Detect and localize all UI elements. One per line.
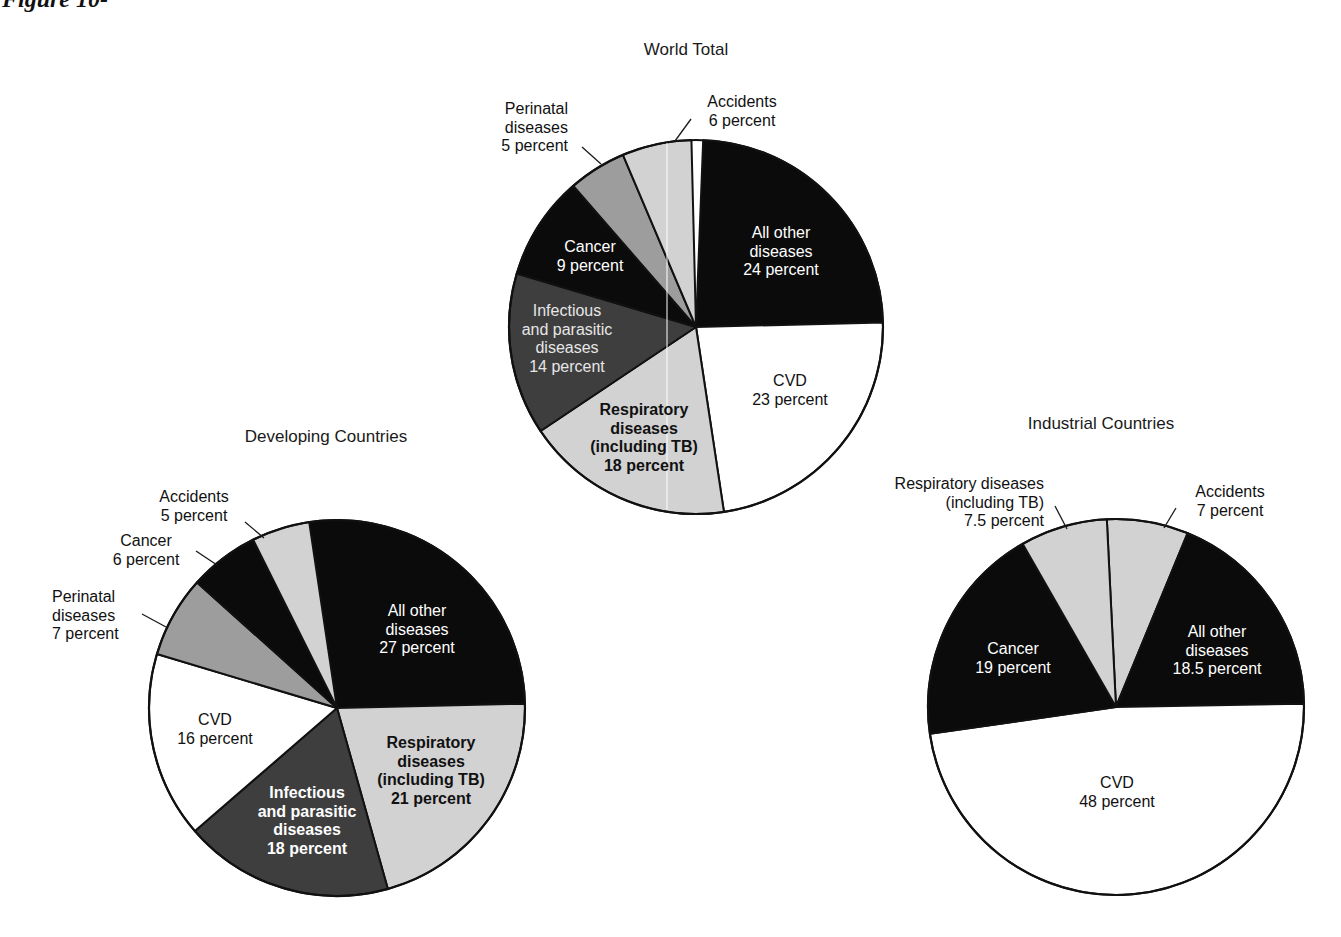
label-line: diseases <box>610 420 678 437</box>
label-world-perinatal: Perinataldiseases5 percent <box>501 100 568 154</box>
world-accidents-leader <box>675 119 691 141</box>
label-line: Respiratory <box>600 401 689 418</box>
label-line: 7 percent <box>52 625 119 642</box>
ind-respiratory-leader <box>1055 506 1067 529</box>
label-world-all-other: All otherdiseases24 percent <box>743 224 819 278</box>
label-ind-accidents: Accidents7 percent <box>1195 483 1264 519</box>
label-line: Infectious <box>269 784 345 801</box>
label-line: Perinatal <box>505 100 568 117</box>
dev-cancer-leader <box>196 551 217 565</box>
label-line: diseases <box>273 821 341 838</box>
label-dev-perinatal: Perinataldiseases7 percent <box>52 588 119 642</box>
label-line: Infectious <box>533 302 601 319</box>
label-line: 5 percent <box>161 507 228 524</box>
label-line: (including TB) <box>590 438 698 455</box>
label-line: Cancer <box>120 532 172 549</box>
label-line: 18 percent <box>267 840 348 857</box>
label-line: 23 percent <box>752 391 828 408</box>
label-dev-all-other: All otherdiseases27 percent <box>379 602 455 656</box>
label-line: 21 percent <box>391 790 472 807</box>
label-line: Accidents <box>707 93 776 110</box>
label-line: Accidents <box>1195 483 1264 500</box>
label-world-accidents: Accidents6 percent <box>707 93 776 129</box>
label-line: Cancer <box>987 640 1039 657</box>
label-line: All other <box>1188 623 1247 640</box>
label-line: CVD <box>773 372 807 389</box>
label-line: diseases <box>535 339 598 356</box>
label-line: 9 percent <box>557 257 624 274</box>
label-line: Perinatal <box>52 588 115 605</box>
industrial-countries-slices <box>928 519 1304 895</box>
label-line: 6 percent <box>709 112 776 129</box>
label-line: 19 percent <box>975 659 1051 676</box>
label-line: 18.5 percent <box>1173 660 1263 677</box>
label-line: diseases <box>397 753 465 770</box>
label-line: 27 percent <box>379 639 455 656</box>
industrial-countries-title: Industrial Countries <box>1028 414 1174 433</box>
label-line: Respiratory diseases <box>895 475 1044 492</box>
label-line: All other <box>752 224 811 241</box>
pie-charts-figure: World Total Developing Countries Industr… <box>0 0 1341 937</box>
label-line: 18 percent <box>604 457 685 474</box>
label-line: (including TB) <box>377 771 485 788</box>
label-line: diseases <box>505 119 568 136</box>
label-line: 48 percent <box>1079 793 1155 810</box>
label-line: 14 percent <box>529 358 605 375</box>
world-perinatal-leader <box>582 147 601 164</box>
label-line: 5 percent <box>501 137 568 154</box>
label-line: Cancer <box>564 238 616 255</box>
label-line: and parasitic <box>522 321 613 338</box>
label-line: 16 percent <box>177 730 253 747</box>
label-line: All other <box>388 602 447 619</box>
label-line: Accidents <box>159 488 228 505</box>
label-line: diseases <box>52 607 115 624</box>
label-line: diseases <box>749 243 812 260</box>
developing-countries-title: Developing Countries <box>245 427 408 446</box>
label-line: diseases <box>385 621 448 638</box>
label-world-respiratory: Respiratorydiseases(including TB)18 perc… <box>590 401 698 474</box>
label-world-cancer: Cancer9 percent <box>557 238 624 274</box>
world-total-title: World Total <box>644 40 728 59</box>
label-line: 6 percent <box>113 551 180 568</box>
label-dev-cancer: Cancer6 percent <box>113 532 180 568</box>
label-line: 7 percent <box>1197 502 1264 519</box>
label-dev-respiratory: Respiratorydiseases(including TB)21 perc… <box>377 734 485 807</box>
ind-accidents-leader <box>1164 508 1176 528</box>
label-line: 24 percent <box>743 261 819 278</box>
label-line: CVD <box>198 711 232 728</box>
label-line: Respiratory <box>387 734 476 751</box>
label-line: and parasitic <box>258 803 357 820</box>
dev-perinatal-leader <box>142 614 166 627</box>
label-ind-respiratory: Respiratory diseases(including TB)7.5 pe… <box>895 475 1045 529</box>
label-line: 7.5 percent <box>964 512 1045 529</box>
slice-cvd <box>696 322 883 511</box>
label-line: diseases <box>1185 642 1248 659</box>
dev-accidents-leader <box>245 522 264 538</box>
label-dev-accidents: Accidents5 percent <box>159 488 228 524</box>
label-line: CVD <box>1100 774 1134 791</box>
label-line: (including TB) <box>946 494 1044 511</box>
